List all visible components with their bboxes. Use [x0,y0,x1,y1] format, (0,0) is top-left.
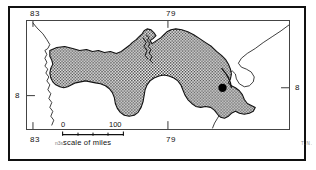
panama-reference-map: 83 79 83 79 8 8 [0,0,316,170]
scale-min-label: 0 [61,121,65,129]
longitude-label-83-bottom: 83 [30,136,40,144]
map-drawing-canvas [27,21,289,129]
longitude-label-79-bottom: 79 [166,136,176,144]
latitude-label-8-left: 8 [15,92,20,100]
scale-max-label: 100 [109,121,122,129]
scale-caption: scale of miles [63,139,111,147]
scale-bar-rule [62,131,124,136]
panama-landmass [50,29,255,118]
latitude-label-8-right: 8 [295,84,300,92]
longitude-label-83-top: 83 [30,10,40,18]
plate-mark-bottom-left: n3s [55,141,63,146]
plate-mark-bottom-right: T.N. [301,142,313,147]
city-marker-dot [218,84,226,92]
map-neatline-frame: 0 100 scale of miles n3s T.N. [26,20,290,130]
longitude-label-79-top: 79 [166,10,176,18]
